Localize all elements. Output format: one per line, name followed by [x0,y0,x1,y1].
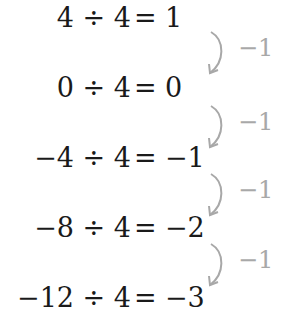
step-label: −1 [238,108,273,136]
equation-rhs: −2 [165,212,205,243]
equation-lhs: −4 ÷ 4 [34,142,131,173]
curved-arrow-down-icon [205,104,235,152]
equals-sign: = [134,72,157,103]
step-annotation: −1 [205,104,285,156]
equation-rhs: −1 [165,142,205,173]
step-label: −1 [238,34,273,62]
curved-arrow-down-icon [205,242,235,290]
equation-rhs: −3 [165,282,205,313]
equation-rhs: 1 [165,2,182,33]
curved-arrow-down-icon [205,172,235,220]
step-annotation: −1 [205,30,285,82]
equation-lhs: −12 ÷ 4 [17,282,131,313]
equation-lhs: −8 ÷ 4 [34,212,131,243]
equals-sign: = [134,2,157,33]
equation-lhs: 0 ÷ 4 [57,72,131,103]
step-label: −1 [238,176,273,204]
step-label: −1 [238,246,273,274]
step-annotation: −1 [205,242,285,294]
curved-arrow-down-icon [205,30,235,78]
step-annotation: −1 [205,172,285,224]
equals-sign: = [134,282,157,313]
equals-sign: = [134,212,157,243]
equation-lhs: 4 ÷ 4 [57,2,131,33]
equation-rhs: 0 [165,72,182,103]
equals-sign: = [134,142,157,173]
